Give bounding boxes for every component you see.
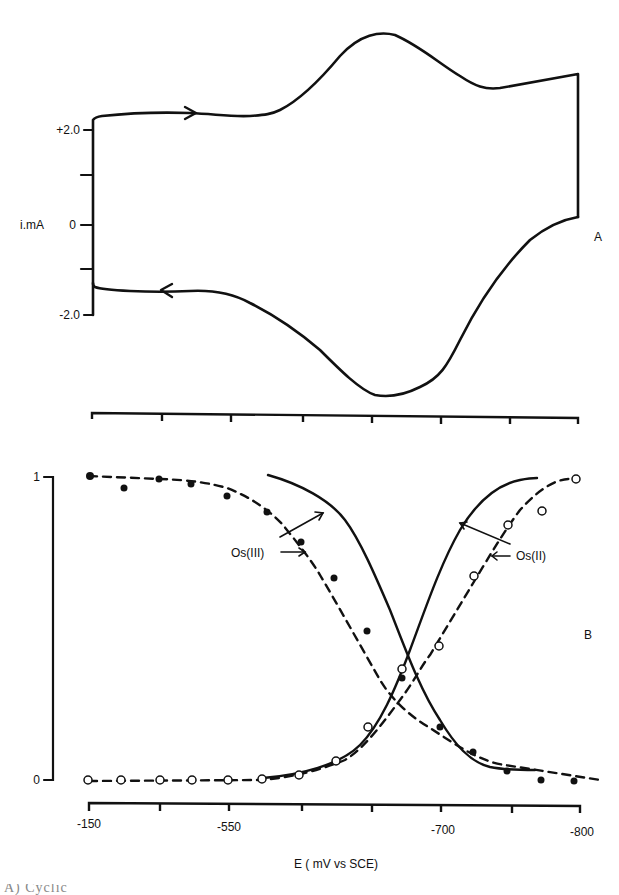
os2-point [295,771,303,779]
os2-point [188,776,196,784]
bottom-x-axis [89,803,580,813]
panel-b [44,475,600,781]
os2-point [364,723,372,731]
panel-a-ylabel: i.mA [20,218,44,232]
xtick-label-550: -550 [217,820,241,834]
os2-point [572,475,580,483]
os3-point [538,777,545,784]
cv-forward-trace [93,33,578,315]
os2-point [435,642,443,650]
xtick-label-150: -150 [77,817,101,831]
os2-point [156,776,164,784]
os3-point [156,476,163,483]
os2-markers [84,475,580,784]
panel-b-ytick-zero-label: 0 [33,773,40,787]
panel-a-ytick-neg-label: -2.0 [59,308,80,322]
os3-annotation: Os(III) [231,546,264,560]
panel-b-y-axis [44,477,53,780]
os3-point [331,575,338,582]
os3-point [504,768,511,775]
os3-point [437,724,444,731]
panel-a-ytick-pos-label: +2.0 [56,123,80,137]
os2-point [332,757,340,765]
os3-point [298,539,305,546]
os2-annotation: Os(II) [516,549,546,563]
panel-a-ytick-zero-label: 0 [69,218,76,232]
os3-markers [86,472,578,785]
figure-caption-fragment: A) Cyclic [0,884,619,895]
os3-point [188,481,195,488]
xtick-label-800: -800 [570,825,594,839]
caption-text: A) Cyclic [4,884,68,895]
cv-and-fraction-chart: +2.0 i.mA 0 -2.0 A [0,0,619,895]
os3-label-arrow-to-theory [280,513,323,537]
os2-point [258,775,266,783]
os2-point [504,521,512,529]
os2-point [398,665,406,673]
os2-point [538,507,546,515]
os2-point [470,572,478,580]
os3-point [224,493,231,500]
os3-point [470,749,477,756]
os2-point [224,776,232,784]
xtick-label-700: -700 [431,823,455,837]
os3-point [264,509,271,516]
middle-x-axis [92,413,578,424]
os3-point [399,675,406,682]
panel-a [81,33,578,396]
os3-point [86,472,94,480]
os3-point [121,485,128,492]
x-axis-title: E ( mV vs SCE) [294,857,378,871]
panel-a-label: A [594,230,602,244]
panel-b-ytick-one-label: 1 [33,470,40,484]
os3-point [571,778,578,785]
os3-point [364,628,371,635]
os3-theory-curve [268,475,535,770]
panel-b-label: B [584,628,592,642]
os2-point [84,776,92,784]
cv-reverse-trace [93,217,578,396]
os3-data-dashed-line [89,476,600,780]
os2-point [117,776,125,784]
